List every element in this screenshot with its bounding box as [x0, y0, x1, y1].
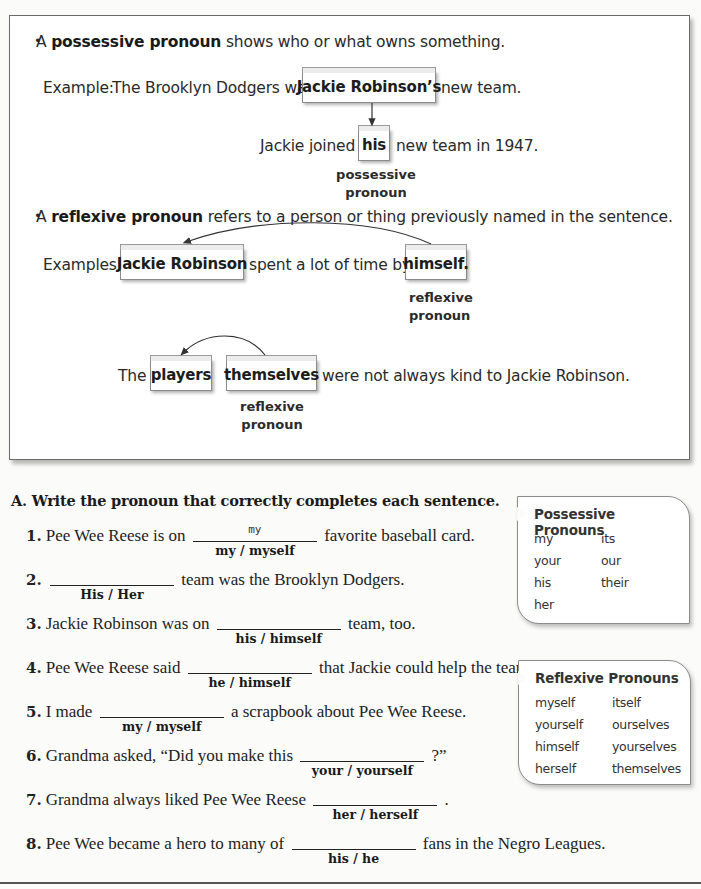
possessive-pronoun-caption: possessive pronoun [328, 166, 424, 202]
choices-8: his / he [292, 851, 416, 866]
noun-box-jackie-robinsons: Jackie Robinson’s [302, 71, 436, 103]
choices-3: his / himself [217, 631, 341, 646]
possessive-example-label: Example: [43, 79, 114, 97]
answer-text-1: my [193, 523, 317, 536]
reference-title: Reflexive Pronouns [535, 670, 679, 686]
question-4: 4.Pee Wee Reese said he / himself that J… [26, 658, 533, 678]
reflexive-example1-middle: spent a lot of time by [249, 256, 411, 274]
concept-box: •A possessive pronoun shows who or what … [9, 15, 690, 460]
choices-7: her / herself [313, 807, 437, 822]
answer-blank-4[interactable]: he / himself [188, 658, 312, 674]
reference-column-2: itself ourselves yourselves themselves [612, 692, 681, 780]
reflexive-pronoun-caption-2: reflexive pronoun [230, 398, 314, 434]
question-8: 8.Pee Wee became a hero to many of his /… [26, 834, 605, 854]
reference-column-2: its our their [601, 528, 629, 594]
notch-icon [518, 671, 527, 685]
possessive-example-end: new team. [441, 79, 521, 97]
choices-1: my / myself [193, 543, 317, 558]
bottom-divider [0, 882, 701, 884]
bullet-icon: • [10, 208, 36, 223]
answer-blank-5[interactable]: my / myself [100, 702, 224, 718]
choices-5: my / myself [100, 719, 224, 734]
pronoun-box-his: his [358, 129, 390, 161]
possessive-pronouns-reference: Possessive Pronouns my your his her its … [517, 496, 690, 624]
pronoun-box-themselves: themselves [226, 359, 317, 391]
reflexive-example2-start: The [118, 367, 146, 385]
answer-blank-8[interactable]: his / he [292, 834, 416, 850]
reflexive-term: reflexive pronoun [51, 208, 203, 226]
reflexive-pronouns-reference: Reflexive Pronouns myself yourself himse… [518, 660, 691, 785]
choices-6: your / yourself [300, 763, 424, 778]
choices-4: he / himself [188, 675, 312, 690]
question-1: 1.Pee Wee Reese is on mymy / myself favo… [26, 526, 475, 546]
answer-blank-1[interactable]: mymy / myself [193, 526, 317, 542]
noun-box-players: players [150, 359, 212, 391]
question-3: 3.Jackie Robinson was on his / himself t… [26, 614, 416, 634]
noun-box-jackie-robinson: Jackie Robinson [120, 248, 244, 280]
notch-icon [517, 507, 526, 521]
answer-blank-6[interactable]: your / yourself [300, 746, 424, 762]
answer-blank-2[interactable]: His / Her [50, 570, 174, 586]
reflexive-definition: •A reflexive pronoun refers to a person … [10, 208, 673, 226]
choices-2: His / Her [50, 587, 174, 602]
question-5: 5.I made my / myself a scrapbook about P… [26, 702, 466, 722]
reference-column-1: my your his her [534, 528, 561, 616]
answer-blank-3[interactable]: his / himself [217, 614, 341, 630]
bullet-icon: • [10, 33, 36, 48]
possessive-sentence2-start: Jackie joined [260, 137, 355, 155]
question-7: 7.Grandma always liked Pee Wee Reese her… [26, 790, 449, 810]
reflexive-examples-label: Examples: [43, 256, 122, 274]
possessive-example-text: The Brooklyn Dodgers was [112, 79, 314, 97]
reference-column-1: myself yourself himself herself [535, 692, 583, 780]
question-6: 6.Grandma asked, “Did you make this your… [26, 746, 447, 766]
possessive-term: possessive pronoun [51, 33, 221, 51]
exercise-title: A. Write the pronoun that correctly comp… [11, 492, 500, 509]
possessive-definition: •A possessive pronoun shows who or what … [10, 33, 505, 51]
question-2: 2. His / Her team was the Brooklyn Dodge… [26, 570, 405, 590]
answer-blank-7[interactable]: her / herself [313, 790, 437, 806]
reflexive-pronoun-caption-1: reflexive pronoun [396, 289, 476, 325]
possessive-sentence2-end: new team in 1947. [396, 137, 538, 155]
reflexive-example2-end: were not always kind to Jackie Robinson. [322, 367, 630, 385]
pronoun-box-himself: himself. [405, 248, 467, 280]
